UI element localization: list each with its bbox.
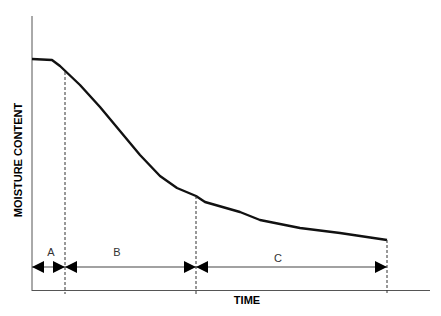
arrow-b-left-icon [65, 261, 77, 273]
x-axis-title: TIME [234, 294, 260, 306]
y-axis-title: MOISTURE CONTENT [12, 103, 24, 218]
segment-label-c: C [274, 252, 282, 264]
arrow-c-left-icon [196, 261, 208, 273]
arrow-b-right-icon [184, 261, 196, 273]
arrow-c-right-icon [375, 261, 387, 273]
arrow-a-left-icon [32, 261, 44, 273]
segment-label-a: A [47, 246, 55, 258]
arrow-a-right-icon [53, 261, 65, 273]
segment-label-b: B [113, 246, 120, 258]
moisture-curve [32, 59, 387, 240]
drying-curve-diagram: A B C TIME MOISTURE CONTENT [0, 0, 441, 316]
